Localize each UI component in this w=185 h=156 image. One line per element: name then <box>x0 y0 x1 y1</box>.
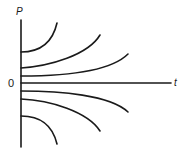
origin-label: 0 <box>8 78 14 89</box>
solution-curve-lower-3 <box>21 116 57 144</box>
solution-curve-upper-3 <box>21 54 128 76</box>
solution-curve-upper-2 <box>21 35 100 68</box>
solution-curve-lower-1 <box>21 91 128 112</box>
solution-curve-lower-2 <box>21 99 100 131</box>
t-axis-label: t <box>174 78 177 88</box>
p-axis-label: P <box>16 7 23 17</box>
solution-curves-diagram <box>0 0 185 156</box>
solution-curve-upper-1 <box>21 23 57 52</box>
